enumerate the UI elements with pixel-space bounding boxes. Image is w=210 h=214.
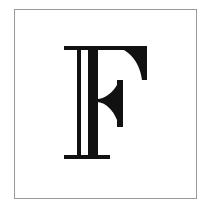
letter-f-icon	[64, 46, 147, 159]
letter-f-glyph	[0, 0, 210, 214]
